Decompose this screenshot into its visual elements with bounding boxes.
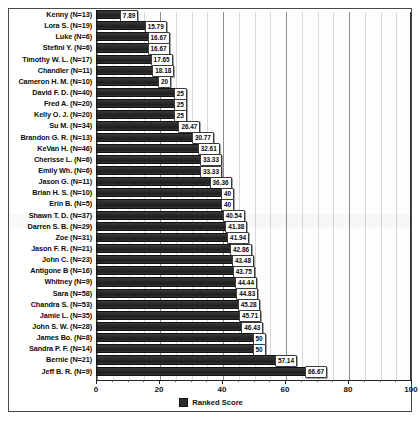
bar-track: 33.33 bbox=[96, 154, 411, 165]
x-tick-minor bbox=[364, 380, 365, 382]
bar-track: 40 bbox=[96, 198, 411, 209]
bar[interactable] bbox=[96, 244, 231, 253]
category-label: Emily Wh. (N=6) bbox=[9, 165, 92, 176]
bar[interactable] bbox=[96, 311, 240, 320]
bar-row: Sara (N=58)44.83 bbox=[9, 288, 413, 299]
bar[interactable] bbox=[96, 155, 201, 164]
bar-row: Jamie L. (N=35)45.71 bbox=[9, 310, 413, 321]
bar[interactable] bbox=[96, 277, 236, 286]
bar[interactable] bbox=[96, 121, 179, 130]
bar-track: 7.89 bbox=[96, 9, 411, 20]
bar-row: Brandon G. R. (N=13)30.77 bbox=[9, 132, 413, 143]
category-label: John S. W. (N=28) bbox=[9, 321, 92, 332]
bar-row: Su M. (N=34)26.47 bbox=[9, 120, 413, 131]
bar-track: 43.75 bbox=[96, 265, 411, 276]
bar[interactable] bbox=[96, 255, 233, 264]
bar[interactable] bbox=[96, 322, 242, 331]
category-label: Sara (N=58) bbox=[9, 288, 92, 299]
bar-row: Darren S. B. (N=29)41.38 bbox=[9, 221, 413, 232]
bar-row: Chandra S. (N=53)45.28 bbox=[9, 299, 413, 310]
bar-track: 16.67 bbox=[96, 42, 411, 53]
bar-row: Fred A. (N=20)25 bbox=[9, 98, 413, 109]
category-label: Chandler (N=11) bbox=[9, 65, 92, 76]
bar-track: 16.67 bbox=[96, 31, 411, 42]
bar[interactable] bbox=[96, 367, 306, 376]
category-label: David F. D. (N=40) bbox=[9, 87, 92, 98]
bar[interactable] bbox=[96, 144, 199, 153]
bar[interactable] bbox=[96, 66, 153, 75]
category-label: Kelly O. J. (N=20) bbox=[9, 109, 92, 120]
category-label: Erin B. (N=5) bbox=[9, 198, 92, 209]
bar[interactable] bbox=[96, 222, 226, 231]
bar[interactable] bbox=[96, 88, 175, 97]
bar[interactable] bbox=[96, 32, 149, 41]
x-tick-minor bbox=[301, 380, 302, 382]
category-label: Jason G. (N=11) bbox=[9, 176, 92, 187]
chart-screenshot: Kenny (N=13)7.89Lora S. (N=19)15.79Luke … bbox=[0, 0, 420, 431]
category-label: Shawn T. D. (N=37) bbox=[9, 210, 92, 221]
bar-track: 25 bbox=[96, 98, 411, 109]
bar-track: 18.18 bbox=[96, 65, 411, 76]
bar[interactable] bbox=[96, 177, 211, 186]
x-tick-minor bbox=[317, 380, 318, 382]
bar-row: Whitney (N=9)44.44 bbox=[9, 276, 413, 287]
x-tick-minor bbox=[269, 380, 270, 382]
bar-row: Zoe (N=31)41.94 bbox=[9, 232, 413, 243]
bar-track: 25 bbox=[96, 109, 411, 120]
legend: Ranked Score bbox=[9, 398, 413, 407]
bar[interactable] bbox=[96, 43, 149, 52]
bar-track: 30.77 bbox=[96, 132, 411, 143]
bar-row: Chandler (N=11)18.18 bbox=[9, 65, 413, 76]
bar-row: David F. D. (N=40)25 bbox=[9, 87, 413, 98]
bar-row: John C. (N=23)43.48 bbox=[9, 254, 413, 265]
bar[interactable] bbox=[96, 10, 121, 19]
bar-row: Brian H. S. (N=10)40 bbox=[9, 187, 413, 198]
category-label: Kenny (N=13) bbox=[9, 9, 92, 20]
bar-row: Kelly O. J. (N=20)25 bbox=[9, 109, 413, 120]
bar[interactable] bbox=[96, 99, 175, 108]
bar[interactable] bbox=[96, 21, 146, 30]
bar-track: 50 bbox=[96, 332, 411, 343]
category-label: Bernie (N=21) bbox=[9, 354, 92, 365]
bar[interactable] bbox=[96, 266, 234, 275]
bar[interactable] bbox=[96, 211, 224, 220]
bar-row: John S. W. (N=28)46.43 bbox=[9, 321, 413, 332]
bar[interactable] bbox=[96, 333, 254, 342]
bar[interactable] bbox=[96, 55, 152, 64]
x-tick-major bbox=[159, 380, 160, 384]
bar-row: KeVan H. (N=46)32.61 bbox=[9, 143, 413, 154]
bar[interactable] bbox=[96, 344, 254, 353]
bar-track: 42.86 bbox=[96, 243, 411, 254]
bar[interactable] bbox=[96, 110, 175, 119]
category-label: Sandra P. F. (N=14) bbox=[9, 343, 92, 354]
category-label: Lora S. (N=19) bbox=[9, 20, 92, 31]
bar-row: Sandra P. F. (N=14)50 bbox=[9, 343, 413, 354]
category-label: Darren S. B. (N=29) bbox=[9, 221, 92, 232]
bar-row: Jeff B. R. (N=9)66.67 bbox=[9, 366, 413, 377]
category-label: Jeff B. R. (N=9) bbox=[9, 366, 92, 377]
bar[interactable] bbox=[96, 289, 237, 298]
bar[interactable] bbox=[96, 300, 239, 309]
x-axis bbox=[96, 380, 411, 381]
bar-row: Shawn T. D. (N=37)40.54 bbox=[9, 210, 413, 221]
category-label: Antigone B (N=16) bbox=[9, 265, 92, 276]
bar[interactable] bbox=[96, 133, 193, 142]
bar[interactable] bbox=[96, 355, 276, 364]
bar-track: 66.67 bbox=[96, 366, 411, 377]
bar-track: 57.14 bbox=[96, 354, 411, 365]
bar[interactable] bbox=[96, 199, 222, 208]
category-label: Cameron H. M. (N=10) bbox=[9, 76, 92, 87]
bar-track: 15.79 bbox=[96, 20, 411, 31]
x-tick-label: 0 bbox=[94, 385, 98, 394]
bar[interactable] bbox=[96, 166, 201, 175]
x-axis-tick-labels: 020406080100 bbox=[96, 385, 411, 397]
x-tick-label: 20 bbox=[155, 385, 164, 394]
bar[interactable] bbox=[96, 233, 228, 242]
category-label: Timothy W. L. (N=17) bbox=[9, 54, 92, 65]
x-tick-minor bbox=[395, 380, 396, 382]
bar-row: Jason G. (N=11)36.36 bbox=[9, 176, 413, 187]
bar-track: 41.38 bbox=[96, 221, 411, 232]
bar[interactable] bbox=[96, 77, 159, 86]
x-tick-minor bbox=[128, 380, 129, 382]
bar[interactable] bbox=[96, 188, 222, 197]
